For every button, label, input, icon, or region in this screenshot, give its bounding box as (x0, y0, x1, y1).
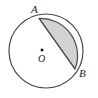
point-label-a: A (31, 4, 38, 15)
geometry-figure: A B O (0, 0, 98, 98)
center-dot-icon (41, 49, 44, 52)
circle-diagram-svg (0, 0, 98, 98)
point-label-b: B (79, 68, 86, 79)
point-label-o: O (38, 53, 45, 64)
